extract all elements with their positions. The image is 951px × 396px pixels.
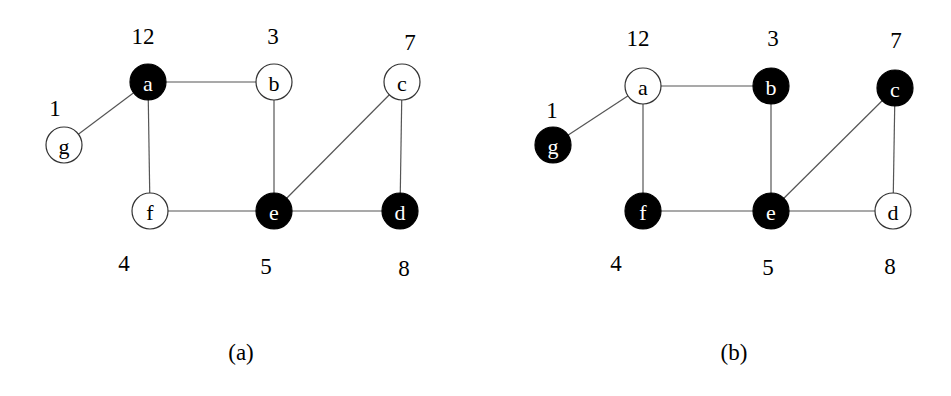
node-label: f — [639, 200, 647, 225]
figure-caption-b: (b) — [721, 340, 748, 365]
node-a: a — [625, 68, 661, 104]
node-weight-b: 3 — [767, 26, 779, 51]
node-label: g — [59, 134, 70, 159]
node-label: b — [269, 71, 280, 96]
node-label: d — [888, 200, 899, 225]
node-label: f — [146, 200, 154, 225]
node-weight-f: 4 — [610, 251, 622, 276]
node-g: g — [46, 127, 82, 163]
node-label: e — [269, 200, 279, 225]
edge-c-d — [400, 82, 402, 211]
node-label: b — [766, 75, 777, 100]
node-label: a — [143, 71, 153, 96]
node-d: d — [875, 193, 911, 229]
node-label: g — [548, 134, 559, 159]
node-weight-g: 1 — [546, 98, 558, 123]
node-weight-a: 12 — [132, 24, 155, 49]
node-weight-d: 8 — [884, 254, 896, 279]
node-weight-b: 3 — [267, 24, 279, 49]
node-weight-e: 5 — [762, 255, 774, 280]
node-g: g — [535, 127, 571, 163]
node-c: c — [877, 70, 913, 106]
node-label: d — [395, 200, 406, 225]
node-f: f — [132, 193, 168, 229]
node-label: c — [397, 71, 407, 96]
node-label: a — [638, 75, 648, 100]
edge-e-c — [274, 82, 402, 211]
node-e: e — [753, 193, 789, 229]
weighted-graph-figure: a12b3c7g1f4e5d8(a) a12b3c7g1f4e5d8(b) — [0, 0, 951, 396]
node-label: e — [766, 200, 776, 225]
figure-caption-a: (a) — [228, 340, 254, 365]
node-label: c — [890, 77, 900, 102]
node-weight-c: 7 — [890, 28, 902, 53]
node-c: c — [384, 64, 420, 100]
graph-a: a12b3c7g1f4e5d8(a) — [46, 24, 420, 365]
node-weight-c: 7 — [404, 30, 416, 55]
node-weight-g: 1 — [49, 96, 61, 121]
node-a: a — [130, 64, 166, 100]
node-f: f — [625, 193, 661, 229]
edge-e-c — [771, 88, 895, 211]
node-weight-d: 8 — [398, 256, 410, 281]
node-b: b — [753, 68, 789, 104]
node-b: b — [256, 64, 292, 100]
node-weight-f: 4 — [118, 251, 130, 276]
node-d: d — [382, 193, 418, 229]
graph-b: a12b3c7g1f4e5d8(b) — [535, 26, 913, 365]
node-weight-a: 12 — [627, 26, 650, 51]
edge-a-f — [148, 82, 150, 211]
node-weight-e: 5 — [260, 254, 272, 279]
node-e: e — [256, 193, 292, 229]
